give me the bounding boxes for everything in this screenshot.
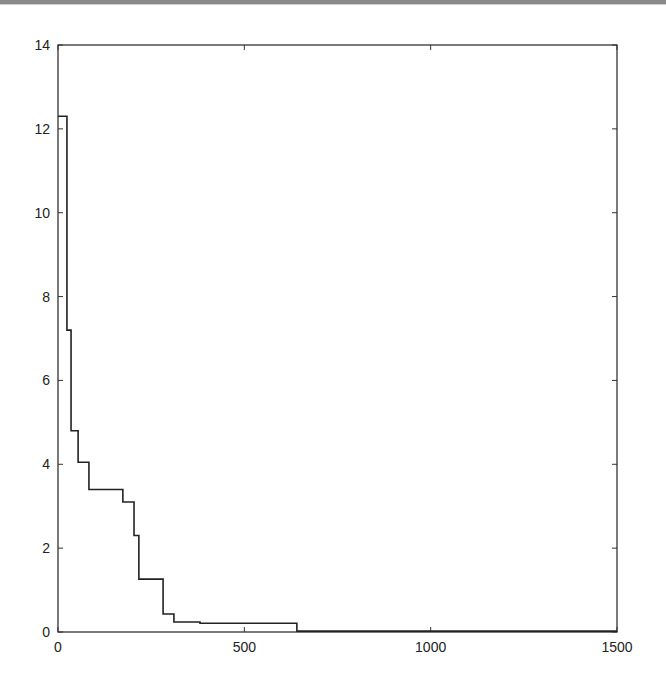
y-tick-label: 0 [42, 624, 50, 640]
x-tick-label: 0 [54, 639, 62, 655]
step-chart: 02468101214 050010001500 [0, 0, 666, 683]
step-curve-line [58, 116, 617, 631]
y-axis-ticks: 02468101214 [34, 37, 617, 640]
y-tick-label: 10 [34, 205, 50, 221]
y-tick-label: 12 [34, 121, 50, 137]
y-tick-label: 8 [42, 289, 50, 305]
y-tick-label: 14 [34, 37, 50, 53]
y-tick-label: 6 [42, 372, 50, 388]
x-axis-ticks: 050010001500 [54, 45, 633, 655]
x-tick-label: 1500 [601, 639, 632, 655]
x-tick-label: 500 [233, 639, 257, 655]
plot-frame [58, 45, 617, 632]
x-tick-label: 1000 [415, 639, 446, 655]
y-tick-label: 2 [42, 540, 50, 556]
y-tick-label: 4 [42, 456, 50, 472]
